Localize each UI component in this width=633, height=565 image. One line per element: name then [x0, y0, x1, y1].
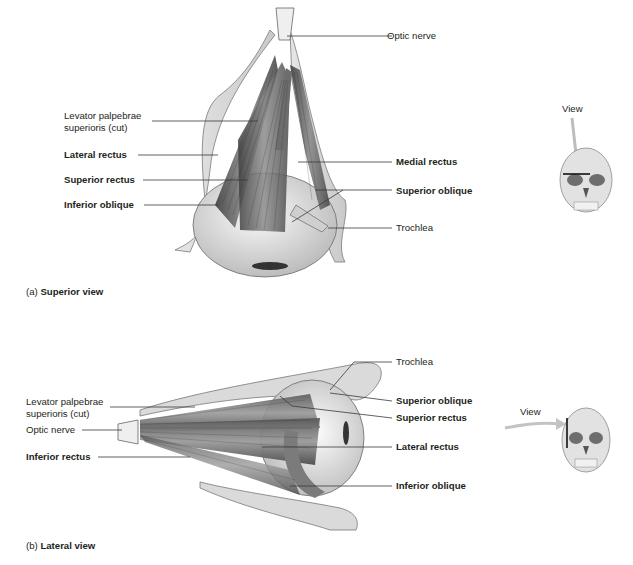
label-optic-nerve: Optic nerve — [387, 30, 436, 42]
label-inferior-rectus: Inferior rectus — [26, 451, 91, 463]
label-inferior-oblique: Inferior oblique — [396, 480, 466, 492]
label-superior-oblique: Superior oblique — [396, 395, 472, 407]
caption-title: Superior view — [40, 286, 103, 297]
label-line-1: Levator palpebrae — [64, 110, 141, 122]
label-inferior-oblique: Inferior oblique — [64, 199, 134, 211]
label-lateral-rectus: Lateral rectus — [396, 441, 459, 453]
label-optic-nerve: Optic nerve — [26, 424, 75, 436]
caption-prefix: (a) — [26, 286, 38, 297]
skull-lateral-view-icon — [505, 408, 610, 472]
label-line-2: superioris (cut) — [64, 122, 141, 134]
caption-prefix: (b) — [26, 540, 38, 551]
lateral-view-illustration — [0, 320, 633, 565]
label-lateral-rectus: Lateral rectus — [64, 149, 127, 161]
label-levator-palpebrae-superioris: Levator palpebrae superioris (cut) — [26, 396, 103, 419]
label-levator-palpebrae-superioris: Levator palpebrae superioris (cut) — [64, 110, 141, 133]
label-superior-rectus: Superior rectus — [396, 412, 467, 424]
caption-title: Lateral view — [40, 540, 95, 551]
panel-superior-view: Optic nerve Levator palpebrae superioris… — [0, 0, 633, 300]
label-line-1: Levator palpebrae — [26, 396, 103, 408]
label-superior-oblique: Superior oblique — [396, 185, 472, 197]
label-line-2: superioris (cut) — [26, 408, 103, 420]
skull-superior-view-icon — [560, 118, 612, 212]
panel-lateral-view: Trochlea Superior oblique Superior rectu… — [0, 320, 633, 565]
label-trochlea: Trochlea — [396, 356, 433, 368]
label-medial-rectus: Medial rectus — [396, 156, 457, 168]
caption-superior-view: (a) Superior view — [26, 286, 103, 297]
view-label: View — [520, 406, 541, 417]
view-label: View — [562, 103, 583, 114]
label-trochlea: Trochlea — [396, 222, 433, 234]
label-superior-rectus: Superior rectus — [64, 174, 135, 186]
caption-lateral-view: (b) Lateral view — [26, 540, 95, 551]
